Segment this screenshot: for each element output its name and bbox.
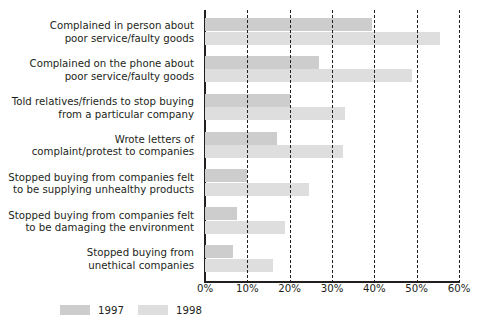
category-label-line: Told relatives/friends to stop buying [12, 96, 194, 109]
category-axis-labels: Complained in person aboutpoor service/f… [0, 14, 200, 279]
bar-1998 [205, 69, 412, 82]
bar-1997 [205, 169, 247, 182]
category-label-line: to be supplying unhealthy products [13, 184, 194, 197]
category-label-line: to be damaging the environment [25, 222, 194, 235]
legend-swatch [60, 305, 90, 315]
bar-chart: Complained in person aboutpoor service/f… [0, 0, 493, 327]
bar-1998 [205, 32, 440, 45]
category-label: Wrote letters ofcomplaint/protest to com… [0, 128, 198, 166]
legend-label: 1997 [98, 305, 124, 316]
bar-1998 [205, 221, 285, 234]
x-tick-label: 0% [197, 283, 213, 294]
category-label: Stopped buying fromunethical companies [0, 241, 198, 279]
bar-1997 [205, 245, 233, 258]
category-label: Stopped buying from companies feltto be … [0, 165, 198, 203]
category-label-line: Complained in person about [50, 20, 194, 33]
x-tick-label: 60% [448, 283, 471, 294]
bar-1997 [205, 18, 372, 31]
bar-1998 [205, 107, 345, 120]
category-label: Told relatives/friends to stop buyingfro… [0, 90, 198, 128]
bar-1997 [205, 132, 277, 145]
gridline [417, 10, 418, 283]
category-label-line: from a particular company [58, 109, 194, 122]
x-tick-label: 20% [278, 283, 301, 294]
gridline [290, 10, 291, 283]
gridline [247, 10, 248, 283]
bar-1997 [205, 56, 319, 69]
legend-item: 1997 [60, 305, 124, 316]
category-label-line: Stopped buying from companies felt [8, 172, 194, 185]
category-label-line: complaint/protest to companies [32, 146, 194, 159]
category-label: Stopped buying from companies feltto be … [0, 203, 198, 241]
x-axis-tick-labels: 0%10%20%30%40%50%60% [205, 283, 465, 299]
x-tick-label: 40% [363, 283, 386, 294]
category-label-line: Complained on the phone about [30, 58, 194, 71]
gridline [332, 10, 333, 283]
category-label-line: Wrote letters of [115, 134, 194, 147]
legend-item: 1998 [138, 305, 202, 316]
bar-1997 [205, 207, 237, 220]
category-label-line: Stopped buying from [87, 247, 194, 260]
category-label: Complained in person aboutpoor service/f… [0, 14, 198, 52]
bar-1998 [205, 145, 343, 158]
gridline [459, 10, 460, 283]
x-tick-label: 50% [405, 283, 428, 294]
x-tick-label: 10% [236, 283, 259, 294]
category-label-line: Stopped buying from companies felt [8, 210, 194, 223]
bar-1998 [205, 183, 309, 196]
category-label-line: poor service/faulty goods [65, 71, 194, 84]
x-tick-label: 30% [321, 283, 344, 294]
bar-1998 [205, 259, 273, 272]
gridline [374, 10, 375, 283]
category-label-line: poor service/faulty goods [65, 33, 194, 46]
category-label-line: unethical companies [88, 260, 194, 273]
category-label: Complained on the phone aboutpoor servic… [0, 52, 198, 90]
chart-legend: 19971998 [60, 303, 216, 317]
legend-label: 1998 [176, 305, 202, 316]
plot-area [205, 14, 459, 279]
legend-swatch [138, 305, 168, 315]
